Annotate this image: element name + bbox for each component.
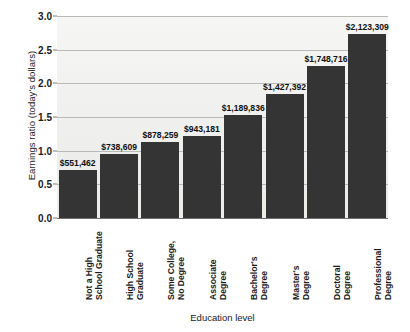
bar-value-label: $1,748,716 <box>304 54 347 64</box>
bar-value-label: $943,181 <box>184 124 220 134</box>
x-axis-category-label-line: Degree <box>384 248 394 300</box>
x-axis-category-label-line: Graduate <box>136 250 146 300</box>
y-tick-label: 2.0 <box>24 78 52 89</box>
x-axis-category-label: Some College,No Degree <box>167 241 186 300</box>
x-axis-category-label-line: Not a High <box>85 231 95 300</box>
x-axis-category-label: Master'sDegree <box>292 265 311 300</box>
x-axis-category-label-line: School Graduate <box>94 231 104 300</box>
x-axis-category-label-line: No Degree <box>177 241 187 300</box>
axis-baseline <box>57 218 388 219</box>
bar: $1,748,716 <box>307 66 345 218</box>
x-axis-category-label: High SchoolGraduate <box>126 250 145 300</box>
x-axis-category-label-line: Degree <box>260 256 270 300</box>
plot-area: $551,462$738,609$878,259$943,181$1,189,8… <box>57 16 388 218</box>
bar: $1,427,392 <box>266 94 304 218</box>
bar-value-label: $551,462 <box>60 158 96 168</box>
bar: $1,189,836 <box>224 115 262 218</box>
x-axis-category-label: Not a HighSchool Graduate <box>85 231 104 300</box>
bars: $551,462$738,609$878,259$943,181$1,189,8… <box>57 16 388 218</box>
x-axis-category-label: ProfessionalDegree <box>374 248 393 300</box>
y-tick-label: 0.5 <box>24 179 52 190</box>
bar: $551,462 <box>59 170 97 218</box>
y-tick-label: 1.0 <box>24 145 52 156</box>
x-axis-category-label-line: Degree <box>218 259 228 300</box>
bar: $943,181 <box>183 136 221 218</box>
bar-value-label: $1,189,836 <box>222 103 265 113</box>
y-tick-label: 3.0 <box>24 11 52 22</box>
bar-chart: Earnings ratio (today's dollars) 0.00.51… <box>0 0 410 332</box>
bar: $878,259 <box>141 142 179 218</box>
x-axis-category-label-line: Master's <box>292 265 302 300</box>
y-tick-label: 0.0 <box>24 213 52 224</box>
y-tick-label: 1.5 <box>24 112 52 123</box>
x-axis-category-label-line: Degree <box>343 265 353 300</box>
x-axis-category-label-line: Degree <box>301 265 311 300</box>
bar-value-label: $878,259 <box>143 130 179 140</box>
bar-value-label: $1,427,392 <box>263 82 306 92</box>
y-tick-label: 2.5 <box>24 44 52 55</box>
bar-value-label: $2,123,309 <box>346 22 389 32</box>
bar-value-label: $738,609 <box>101 142 137 152</box>
x-axis-category-label-line: Associate <box>209 259 219 300</box>
x-axis-category-label: DoctoralDegree <box>333 265 352 300</box>
x-axis-category-label: Bachelor'sDegree <box>250 256 269 300</box>
bar: $738,609 <box>100 154 138 218</box>
x-axis-title: Education level <box>57 312 388 323</box>
x-axis-category-label: AssociateDegree <box>209 259 228 300</box>
y-axis-ticks: 0.00.51.01.52.02.53.0 <box>24 0 52 332</box>
x-axis-category-labels: Not a HighSchool GraduateHigh SchoolGrad… <box>57 218 388 303</box>
bar: $2,123,309 <box>348 34 386 218</box>
